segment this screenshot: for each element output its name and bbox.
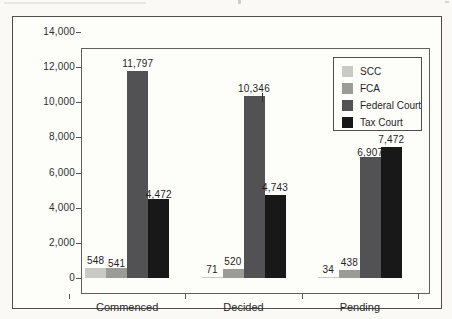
legend-label: SCC <box>360 66 381 77</box>
bar-chart: 02,0004,0006,0008,00010,00012,00014,000C… <box>12 16 442 309</box>
scan-artifact <box>238 0 241 4</box>
legend-swatch-federal-court <box>342 100 353 111</box>
bar-fca-pending <box>339 270 360 278</box>
y-axis-tick-label: 0 <box>21 272 75 283</box>
label-leader-line <box>262 93 263 102</box>
legend-item-scc: SCC <box>334 63 421 80</box>
y-axis-tick-label: 2,000 <box>21 237 75 248</box>
bar-scc-commenced <box>85 268 106 278</box>
y-axis-tick-label: 4,000 <box>21 202 75 213</box>
y-axis-tick-label: 14,000 <box>21 26 75 37</box>
bar-value-label: 541 <box>108 258 125 269</box>
x-axis-tick <box>69 294 70 299</box>
bar-value-label: 7,472 <box>378 134 404 145</box>
x-axis-tick <box>302 294 303 299</box>
legend-rows: SCCFCAFederal CourtTax Court <box>334 63 421 131</box>
bar-value-label: 4,743 <box>262 182 288 193</box>
y-axis-tick <box>76 32 81 33</box>
bar-value-label: 10,346 <box>238 83 270 94</box>
legend-swatch-tax-court <box>342 117 353 128</box>
legend-label: FCA <box>360 83 380 94</box>
x-axis-tick <box>418 294 419 299</box>
x-axis-tick <box>185 294 186 299</box>
bar-tax-court-commenced <box>148 199 169 278</box>
bar-scc-decided <box>202 277 223 278</box>
bar-value-label: 71 <box>206 264 218 275</box>
category-label-pending: Pending <box>340 301 380 313</box>
bar-value-label: 548 <box>87 255 104 266</box>
legend-item-federal-court: Federal Court <box>334 97 421 114</box>
bar-federal-court-commenced <box>127 71 148 278</box>
category-label-commenced: Commenced <box>96 301 158 313</box>
legend-label: Tax Court <box>360 117 403 128</box>
legend-item-tax-court: Tax Court <box>334 114 421 131</box>
legend-label: Federal Court <box>360 100 421 111</box>
bar-tax-court-pending <box>381 147 402 278</box>
bar-value-label: 438 <box>341 257 358 268</box>
bar-federal-court-pending <box>360 157 381 278</box>
bar-value-label: 4,472 <box>146 189 172 200</box>
bar-value-label: 6,907 <box>357 147 383 158</box>
y-axis-tick-label: 8,000 <box>21 131 75 142</box>
chart-legend: SCCFCAFederal CourtTax Court <box>333 57 422 131</box>
bar-value-label: 34 <box>323 264 335 275</box>
legend-item-fca: FCA <box>334 80 421 97</box>
bar-fca-decided <box>223 269 244 278</box>
legend-swatch-fca <box>342 83 353 94</box>
legend-swatch-scc <box>342 66 353 77</box>
bar-value-label: 11,797 <box>122 58 153 69</box>
bar-fca-commenced <box>106 268 127 278</box>
y-axis-tick-label: 12,000 <box>21 61 75 72</box>
bar-scc-pending <box>318 277 339 278</box>
bar-tax-court-decided <box>265 195 286 278</box>
scanned-chart-page: 02,0004,0006,0008,00010,00012,00014,000C… <box>0 0 452 319</box>
y-axis-tick-label: 10,000 <box>21 96 75 107</box>
scan-artifact <box>4 2 146 4</box>
y-axis-tick-label: 6,000 <box>21 167 75 178</box>
category-label-decided: Decided <box>223 301 263 313</box>
scan-artifact <box>445 1 449 3</box>
bar-value-label: 520 <box>224 256 241 267</box>
